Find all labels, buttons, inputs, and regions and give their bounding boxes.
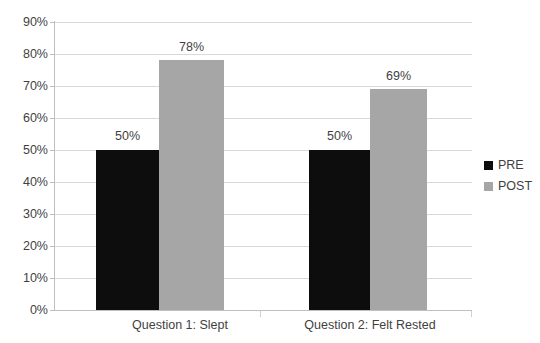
y-axis-tick-label: 20% <box>4 240 48 252</box>
legend-label-pre: PRE <box>498 159 524 172</box>
y-axis-tick-label: 70% <box>4 80 48 92</box>
x-axis-end-tick <box>471 311 472 317</box>
bar-pre-question-2[interactable] <box>309 150 370 310</box>
bar-chart: 90% 80% 70% 60% 50% 40% 30% 20% 10% 0% <box>0 0 540 343</box>
gridline <box>55 22 472 23</box>
bar-pre-question-1[interactable] <box>96 150 159 310</box>
bar-post-question-1[interactable] <box>159 60 224 310</box>
legend-item-post[interactable]: POST <box>484 176 540 197</box>
y-axis-tick-label: 60% <box>4 112 48 124</box>
plot-area <box>55 22 472 310</box>
y-axis-tick-label: 80% <box>4 48 48 60</box>
bar-value-label-post-question-2: 69% <box>370 70 427 83</box>
bar-value-label-pre-question-1: 50% <box>96 130 159 143</box>
legend-swatch-icon-post <box>484 182 493 191</box>
x-axis-baseline <box>55 310 472 311</box>
gridline <box>55 54 472 55</box>
bar-value-label-post-question-1: 78% <box>159 41 224 54</box>
gridline <box>55 86 472 87</box>
x-axis-category-separator <box>260 311 261 317</box>
y-axis-tick-label: 90% <box>4 16 48 28</box>
y-axis-labels: 90% 80% 70% 60% 50% 40% 30% 20% 10% 0% <box>0 0 48 343</box>
y-axis-tick-label: 40% <box>4 176 48 188</box>
legend-swatch-icon-pre <box>484 161 493 170</box>
x-axis-category-label-1: Question 1: Slept <box>95 318 265 332</box>
legend-label-post: POST <box>498 180 532 193</box>
y-axis-tick-label: 0% <box>4 304 48 316</box>
y-axis-tick-label: 50% <box>4 144 48 156</box>
y-axis-tick-label: 30% <box>4 208 48 220</box>
bar-value-label-pre-question-2: 50% <box>309 130 370 143</box>
y-axis-tick-label: 10% <box>4 272 48 284</box>
legend: PRE POST <box>484 155 540 197</box>
legend-item-pre[interactable]: PRE <box>484 155 540 176</box>
bar-post-question-2[interactable] <box>370 89 427 310</box>
x-axis-category-label-2: Question 2: Felt Rested <box>280 318 460 332</box>
